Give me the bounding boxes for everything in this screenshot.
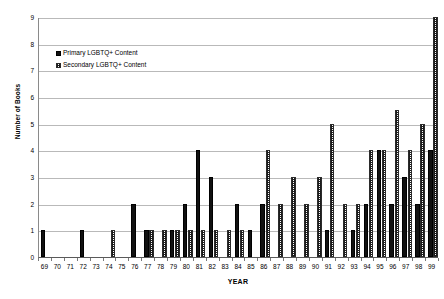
year-bar-group bbox=[220, 18, 233, 257]
x-axis-tick bbox=[322, 258, 323, 261]
bar-secondary bbox=[304, 204, 308, 257]
bar-secondary bbox=[149, 230, 153, 257]
bar-primary bbox=[183, 204, 187, 257]
bar-primary bbox=[144, 230, 148, 257]
bar-secondary bbox=[382, 150, 386, 257]
x-axis-tick-label: 99 bbox=[422, 262, 442, 272]
y-axis-tick-label: 4 bbox=[16, 148, 34, 155]
x-axis-tick bbox=[309, 258, 310, 261]
bar-primary bbox=[248, 230, 252, 257]
year-bar-group bbox=[413, 18, 426, 257]
x-axis-tick bbox=[206, 258, 207, 261]
x-axis-tick bbox=[386, 258, 387, 261]
legend-item-secondary: Secondary LGBTQ+ Content bbox=[56, 60, 206, 71]
y-axis-tick-label: 0 bbox=[16, 255, 34, 262]
year-bar-group bbox=[297, 18, 310, 257]
year-bar-group bbox=[310, 18, 323, 257]
bar-secondary bbox=[343, 204, 347, 257]
bar-secondary bbox=[227, 230, 231, 257]
year-bar-group bbox=[271, 18, 284, 257]
chart-legend: Primary LGBTQ+ Content Secondary LGBTQ+ … bbox=[56, 48, 206, 72]
year-bar-group bbox=[323, 18, 336, 257]
bar-primary bbox=[428, 150, 432, 257]
y-axis-tick-label: 6 bbox=[16, 95, 34, 102]
x-axis-tick bbox=[373, 258, 374, 261]
bar-primary bbox=[415, 204, 419, 257]
x-axis-tick bbox=[438, 258, 439, 261]
bar-secondary bbox=[162, 230, 166, 257]
bar-primary bbox=[389, 204, 393, 257]
legend-label-primary: Primary LGBTQ+ Content bbox=[63, 50, 138, 57]
y-axis-tick-labels: 0123456789 bbox=[16, 18, 34, 258]
bar-secondary bbox=[188, 230, 192, 257]
bar-secondary bbox=[201, 230, 205, 257]
y-axis-tick-label: 7 bbox=[16, 68, 34, 75]
x-axis-tick bbox=[412, 258, 413, 261]
bar-primary bbox=[260, 204, 264, 257]
bar-primary bbox=[80, 230, 84, 257]
x-axis-tick bbox=[90, 258, 91, 261]
x-axis-tick bbox=[232, 258, 233, 261]
bar-secondary bbox=[278, 204, 282, 257]
bar-secondary bbox=[291, 177, 295, 257]
bar-secondary bbox=[408, 150, 412, 257]
year-bar-group bbox=[362, 18, 375, 257]
x-axis-tick bbox=[193, 258, 194, 261]
year-bar-group bbox=[336, 18, 349, 257]
bar-secondary bbox=[369, 150, 373, 257]
year-bar-group bbox=[400, 18, 413, 257]
x-axis-tick bbox=[399, 258, 400, 261]
x-axis-tick bbox=[244, 258, 245, 261]
bar-primary bbox=[351, 230, 355, 257]
legend-item-primary: Primary LGBTQ+ Content bbox=[56, 48, 206, 59]
bar-secondary bbox=[420, 124, 424, 257]
bar-primary bbox=[170, 230, 174, 257]
x-axis-tick bbox=[180, 258, 181, 261]
x-axis-tick bbox=[167, 258, 168, 261]
x-axis-tick bbox=[115, 258, 116, 261]
x-axis-tick bbox=[38, 258, 39, 261]
year-bar-group bbox=[245, 18, 258, 257]
bar-primary bbox=[364, 204, 368, 257]
year-bar-group bbox=[39, 18, 52, 257]
x-axis-tick bbox=[141, 258, 142, 261]
bar-secondary bbox=[317, 177, 321, 257]
x-axis-tick bbox=[128, 258, 129, 261]
x-axis-title: YEAR bbox=[38, 278, 438, 285]
year-bar-group bbox=[374, 18, 387, 257]
x-axis-tick bbox=[103, 258, 104, 261]
x-axis-tick bbox=[425, 258, 426, 261]
y-axis-tick-label: 9 bbox=[16, 15, 34, 22]
legend-label-secondary: Secondary LGBTQ+ Content bbox=[63, 62, 146, 69]
bar-primary bbox=[325, 230, 329, 257]
x-axis-tick bbox=[257, 258, 258, 261]
bar-secondary bbox=[266, 150, 270, 257]
bar-primary bbox=[41, 230, 45, 257]
x-axis-tick bbox=[154, 258, 155, 261]
x-axis-tick bbox=[361, 258, 362, 261]
bar-primary bbox=[131, 204, 135, 257]
y-axis-tick-label: 8 bbox=[16, 41, 34, 48]
bar-secondary bbox=[433, 17, 437, 257]
y-axis-tick-label: 5 bbox=[16, 121, 34, 128]
year-bar-group bbox=[426, 18, 439, 257]
bar-primary bbox=[402, 177, 406, 257]
bar-secondary bbox=[240, 230, 244, 257]
bar-secondary bbox=[395, 110, 399, 257]
x-axis-tick bbox=[348, 258, 349, 261]
y-axis-tick-label: 3 bbox=[16, 175, 34, 182]
x-axis-tick bbox=[51, 258, 52, 261]
bar-chart: Number of Books 0123456789 6970717273747… bbox=[0, 0, 444, 299]
x-axis-tick bbox=[270, 258, 271, 261]
bar-secondary bbox=[175, 230, 179, 257]
year-bar-group bbox=[207, 18, 220, 257]
x-axis-tick bbox=[335, 258, 336, 261]
x-axis-tick bbox=[296, 258, 297, 261]
x-axis-tick-labels: 6970717273747576777879808182838485868788… bbox=[38, 262, 438, 274]
year-bar-group bbox=[258, 18, 271, 257]
y-axis-tick-label: 1 bbox=[16, 228, 34, 235]
bar-primary bbox=[377, 150, 381, 257]
x-axis-tick bbox=[64, 258, 65, 261]
bar-secondary bbox=[214, 230, 218, 257]
bar-primary bbox=[209, 177, 213, 257]
